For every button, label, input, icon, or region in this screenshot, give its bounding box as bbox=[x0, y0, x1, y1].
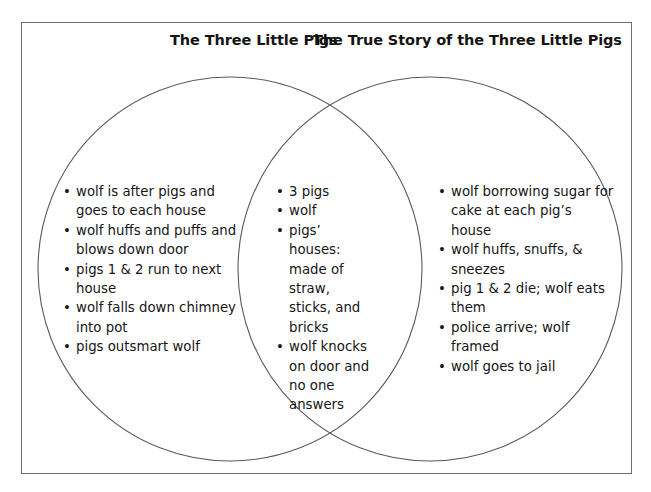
list-item: •wolf goes to jail bbox=[438, 357, 616, 376]
bullet-icon: • bbox=[438, 182, 446, 201]
list-item-text: wolf bbox=[289, 203, 316, 218]
venn-diagram-page: The Three Little Pigs The True Story of … bbox=[0, 0, 651, 492]
list-item: •pigs outsmart wolf bbox=[63, 337, 239, 356]
list-item: •wolf bbox=[276, 201, 372, 220]
list-item-text: pig 1 & 2 die; wolf eats them bbox=[451, 281, 605, 315]
list-item: •wolf borrowing sugar for cake at each p… bbox=[438, 182, 616, 240]
list-item-text: wolf goes to jail bbox=[451, 359, 555, 374]
right-only-region: •wolf borrowing sugar for cake at each p… bbox=[438, 182, 616, 376]
list-item-text: police arrive; wolf framed bbox=[451, 320, 569, 354]
bullet-icon: • bbox=[63, 260, 71, 279]
bullet-icon: • bbox=[63, 221, 71, 240]
bullet-icon: • bbox=[438, 357, 446, 376]
list-item: •pigs’ houses: made of straw, sticks, an… bbox=[276, 221, 372, 337]
list-item-text: wolf falls down chimney into pot bbox=[76, 300, 236, 334]
left-only-region: •wolf is after pigs and goes to each hou… bbox=[63, 182, 239, 357]
list-item-text: wolf knocks on door and no one answers bbox=[289, 339, 369, 412]
list-item-text: pigs’ houses: made of straw, sticks, and… bbox=[289, 223, 360, 335]
left-only-list: •wolf is after pigs and goes to each hou… bbox=[63, 182, 239, 357]
intersection-region: •3 pigs •wolf •pigs’ houses: made of str… bbox=[276, 182, 372, 415]
list-item: •police arrive; wolf framed bbox=[438, 318, 616, 357]
list-item: •pig 1 & 2 die; wolf eats them bbox=[438, 279, 616, 318]
list-item: •3 pigs bbox=[276, 182, 372, 201]
list-item: •wolf huffs and puffs and blows down doo… bbox=[63, 221, 239, 260]
bullet-icon: • bbox=[438, 279, 446, 298]
bullet-icon: • bbox=[438, 240, 446, 259]
bullet-icon: • bbox=[276, 201, 284, 220]
intersection-list: •3 pigs •wolf •pigs’ houses: made of str… bbox=[276, 182, 372, 415]
bullet-icon: • bbox=[63, 298, 71, 317]
list-item-text: wolf borrowing sugar for cake at each pi… bbox=[451, 184, 613, 238]
list-item-text: wolf huffs and puffs and blows down door bbox=[76, 223, 236, 257]
list-item: •wolf knocks on door and no one answers bbox=[276, 337, 372, 415]
right-only-list: •wolf borrowing sugar for cake at each p… bbox=[438, 182, 616, 376]
list-item-text: wolf is after pigs and goes to each hous… bbox=[76, 184, 215, 218]
bullet-icon: • bbox=[276, 221, 284, 240]
list-item-text: pigs 1 & 2 run to next house bbox=[76, 262, 221, 296]
bullet-icon: • bbox=[438, 318, 446, 337]
list-item-text: wolf huffs, snuffs, & sneezes bbox=[451, 242, 583, 276]
list-item-text: pigs outsmart wolf bbox=[76, 339, 200, 354]
list-item-text: 3 pigs bbox=[289, 184, 329, 199]
bullet-icon: • bbox=[276, 337, 284, 356]
list-item: •wolf huffs, snuffs, & sneezes bbox=[438, 240, 616, 279]
bullet-icon: • bbox=[63, 182, 71, 201]
list-item: •wolf is after pigs and goes to each hou… bbox=[63, 182, 239, 221]
list-item: •wolf falls down chimney into pot bbox=[63, 298, 239, 337]
list-item: •pigs 1 & 2 run to next house bbox=[63, 260, 239, 299]
bullet-icon: • bbox=[63, 337, 71, 356]
bullet-icon: • bbox=[276, 182, 284, 201]
